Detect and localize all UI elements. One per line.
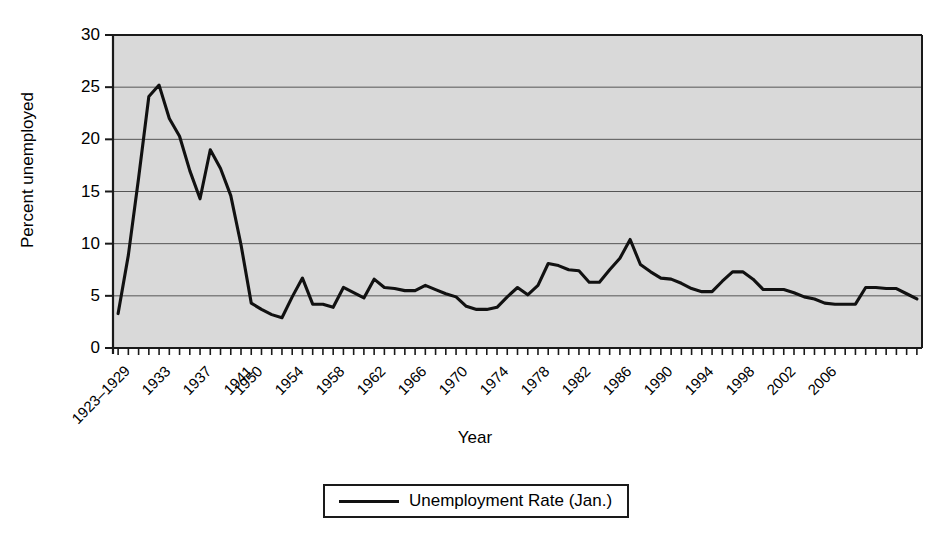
plot-area [0,0,950,544]
legend-entry-label: Unemployment Rate (Jan.) [409,491,612,511]
unemployment-rate-chart: Percent unemployed 302520151050 1923–192… [0,0,950,544]
chart-legend: Unemployment Rate (Jan.) [323,484,629,518]
legend-line-swatch-icon [339,500,399,503]
x-axis-title: Year [0,428,950,448]
